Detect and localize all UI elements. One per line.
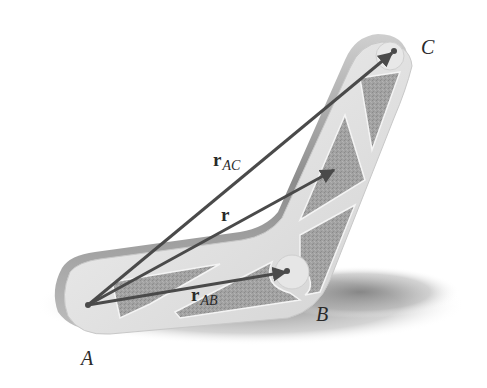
point-c-dot — [391, 48, 397, 54]
label-vector-r-ac: rAC — [213, 150, 240, 169]
diagram-figure: C B A rAC r rAB — [0, 0, 487, 388]
label-vector-r: r — [221, 205, 229, 224]
vector-subscript: AB — [200, 293, 217, 308]
vector-symbol: r — [191, 284, 199, 305]
vector-symbol: r — [221, 204, 229, 225]
vector-subscript: AC — [222, 158, 240, 173]
label-point-c: C — [421, 37, 434, 57]
vector-symbol: r — [213, 149, 221, 170]
member-drawing — [0, 0, 487, 388]
label-vector-r-ab: rAB — [191, 285, 218, 304]
label-point-a: A — [81, 348, 93, 368]
point-a-dot — [85, 302, 91, 308]
point-b-dot — [284, 268, 290, 274]
label-point-b: B — [316, 304, 328, 324]
